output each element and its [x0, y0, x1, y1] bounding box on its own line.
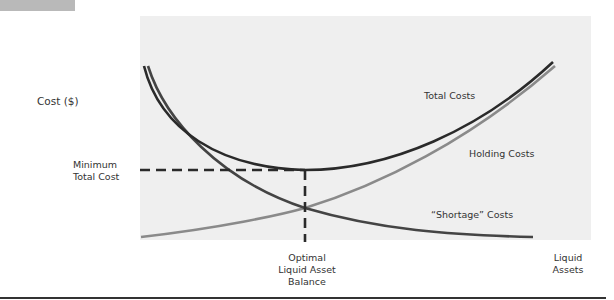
- y-axis-label: Cost ($): [37, 95, 79, 107]
- min-total-cost-line1: Minimum: [73, 159, 119, 171]
- optimal-balance-label: Optimal Liquid Asset Balance: [272, 252, 342, 288]
- total-costs-label: Total Costs: [424, 90, 475, 102]
- holding-costs-label: Holding Costs: [469, 148, 534, 160]
- shortage-costs-label: “Shortage” Costs: [431, 209, 513, 221]
- bottom-rule: [0, 297, 606, 299]
- optimal-line2: Liquid Asset: [272, 264, 342, 276]
- x-axis-label: Liquid Assets: [548, 252, 588, 276]
- x-axis-line1: Liquid: [548, 252, 588, 264]
- x-axis-line2: Assets: [548, 264, 588, 276]
- optimal-line1: Optimal: [272, 252, 342, 264]
- optimal-line3: Balance: [272, 276, 342, 288]
- min-total-cost-label: Minimum Total Cost: [73, 159, 119, 183]
- min-total-cost-line2: Total Cost: [73, 171, 119, 183]
